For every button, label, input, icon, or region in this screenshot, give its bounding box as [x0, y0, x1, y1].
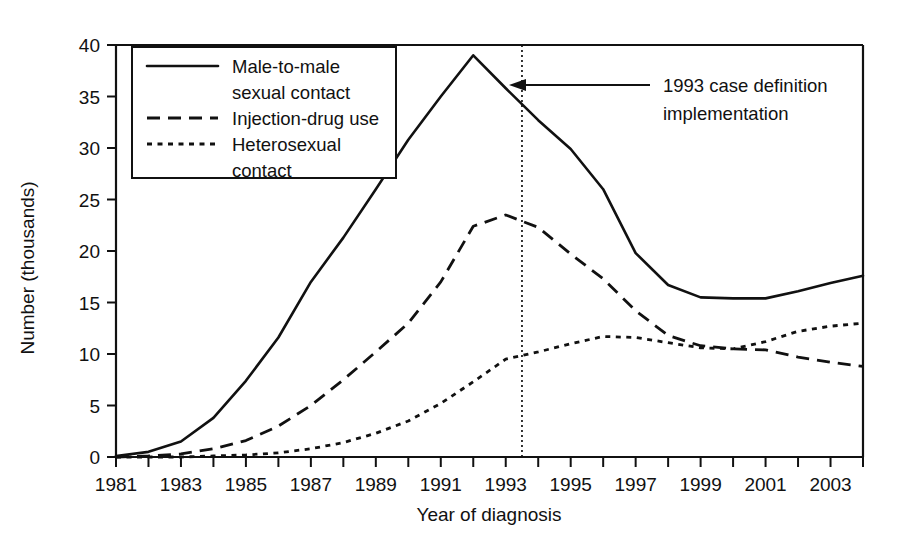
y-tick-label: 5: [89, 396, 100, 417]
series-dashed: [116, 215, 863, 457]
x-tick-label: 1981: [95, 474, 137, 495]
x-tick-label: 1991: [420, 474, 462, 495]
series-dotted: [116, 323, 863, 457]
y-tick-label: 20: [79, 241, 100, 262]
x-axis: 1981198319851987198919911993199519971999…: [95, 457, 863, 495]
legend-label-male-to-male-line2: sexual contact: [232, 82, 350, 103]
legend-label-heterosexual-line1: Heterosexual: [232, 134, 341, 155]
legend-label-injection-drug-use: Injection-drug use: [232, 108, 379, 129]
case-definition-marker: 1993 case definition implementation: [509, 45, 828, 457]
y-tick-label: 15: [79, 293, 100, 314]
legend-label-heterosexual-line2: contact: [232, 160, 292, 181]
y-tick-label: 0: [89, 447, 100, 468]
y-tick-label: 40: [79, 35, 100, 56]
x-tick-label: 1989: [355, 474, 397, 495]
y-axis: 0510152025303540: [79, 35, 116, 468]
line-chart: 0510152025303540 19811983198519871989199…: [0, 0, 911, 550]
legend-label-male-to-male-line1: Male-to-male: [232, 56, 340, 77]
x-tick-label: 2003: [809, 474, 851, 495]
x-tick-label: 1997: [615, 474, 657, 495]
x-tick-label: 1983: [160, 474, 202, 495]
x-tick-label: 1993: [485, 474, 527, 495]
y-tick-label: 10: [79, 344, 100, 365]
y-tick-label: 30: [79, 138, 100, 159]
y-tick-label: 35: [79, 87, 100, 108]
legend: Male-to-male sexual contact Injection-dr…: [132, 47, 396, 181]
x-axis-title: Year of diagnosis: [416, 504, 561, 525]
x-tick-label: 2001: [744, 474, 786, 495]
x-tick-label: 1999: [679, 474, 721, 495]
y-axis-title: Number (thousands): [17, 181, 38, 354]
annotation-arrow-head: [509, 79, 526, 91]
x-tick-label: 1985: [225, 474, 267, 495]
annotation-line-1: 1993 case definition: [663, 75, 828, 96]
x-tick-label: 1995: [550, 474, 592, 495]
annotation-line-2: implementation: [663, 103, 788, 124]
x-tick-label: 1987: [290, 474, 332, 495]
figure-container: 0510152025303540 19811983198519871989199…: [0, 0, 911, 550]
y-tick-label: 25: [79, 190, 100, 211]
